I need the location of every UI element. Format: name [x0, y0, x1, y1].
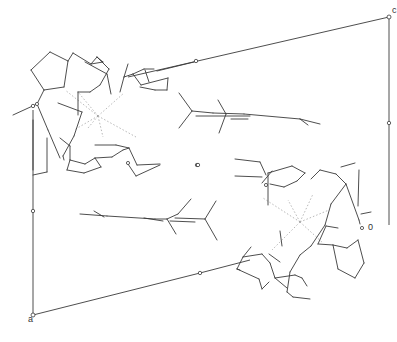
bond [48, 130, 60, 158]
bond [31, 52, 50, 70]
bond [325, 204, 331, 225]
bond [336, 174, 346, 184]
bond [44, 87, 64, 90]
bond [243, 254, 262, 257]
cell-marker [194, 59, 197, 62]
bond [235, 176, 262, 177]
cell-edge [128, 17, 389, 77]
atom-marker [126, 161, 129, 164]
bond [112, 150, 123, 157]
bond [64, 61, 68, 87]
atom-marker [360, 226, 363, 229]
atom-marker [264, 183, 267, 186]
bond [311, 225, 325, 246]
bond [311, 170, 320, 179]
bond [287, 272, 290, 292]
bond [179, 111, 192, 128]
bond [67, 170, 84, 173]
bond [94, 211, 104, 217]
bond [68, 53, 73, 61]
bond [192, 111, 213, 113]
bond [116, 145, 129, 148]
cell-edge [33, 273, 200, 315]
bond [275, 278, 287, 288]
cell-marker [31, 209, 34, 212]
bond [358, 240, 364, 263]
contact-line [98, 93, 124, 116]
contact-line [263, 198, 300, 222]
axis-label-c: c [392, 6, 397, 15]
cell-marker [198, 271, 201, 274]
bond [60, 138, 70, 146]
contact-line [98, 116, 136, 137]
bond [293, 297, 310, 299]
bond [358, 170, 359, 206]
bond [133, 74, 141, 85]
bond [262, 282, 269, 289]
bond [235, 159, 260, 162]
bond [262, 254, 270, 263]
bond [128, 164, 136, 176]
bond [63, 136, 74, 156]
bond [318, 244, 333, 245]
bond [107, 74, 111, 94]
axis-label-a: a [28, 315, 33, 324]
bond [179, 93, 192, 111]
bond [31, 70, 44, 90]
bond [237, 269, 259, 279]
bond [170, 221, 195, 222]
bond [213, 113, 244, 114]
bond [73, 53, 91, 64]
bond [280, 231, 282, 246]
bond [331, 184, 346, 204]
bond [33, 172, 47, 175]
molecular-bonds [13, 52, 371, 299]
bond [259, 279, 262, 289]
contact-line [272, 222, 300, 250]
bond [275, 275, 295, 278]
bond [84, 167, 101, 173]
bond [136, 165, 160, 176]
bond [260, 162, 266, 175]
bond [137, 164, 160, 165]
bond [359, 220, 360, 224]
bond [290, 255, 300, 272]
bond [292, 166, 305, 173]
bond [346, 184, 359, 220]
bond [355, 263, 364, 278]
contact-line [88, 116, 98, 128]
contact-line [288, 200, 300, 222]
bond [284, 181, 297, 187]
bond [338, 269, 355, 278]
bond [333, 245, 347, 248]
bond [302, 278, 307, 286]
bond [37, 104, 48, 130]
bond [297, 173, 305, 181]
bond [167, 78, 168, 90]
bond [333, 245, 338, 269]
bond [237, 269, 240, 270]
bond [262, 171, 272, 183]
bond [70, 160, 85, 164]
cell-marker [31, 104, 34, 107]
bond [90, 85, 100, 92]
bond [205, 201, 216, 219]
bond [37, 90, 44, 104]
bond [50, 52, 68, 61]
bond [157, 62, 194, 71]
bond [141, 78, 168, 85]
bond [270, 263, 275, 278]
cell-corner-marker [387, 15, 391, 19]
bond [74, 112, 82, 136]
bond [95, 158, 101, 167]
bond [85, 158, 95, 164]
bond [63, 156, 64, 160]
bond [205, 219, 217, 240]
bond [341, 163, 355, 167]
bond [95, 157, 112, 158]
contact-line [74, 116, 98, 130]
axis-label-origin: 0 [368, 223, 373, 232]
bond [326, 226, 338, 228]
